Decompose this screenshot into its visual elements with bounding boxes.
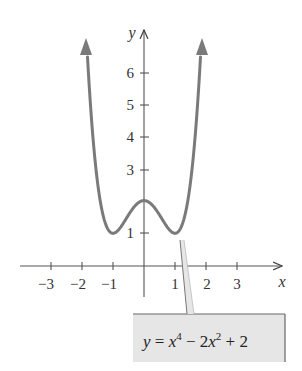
x-tick-label-neg1: −1 (101, 276, 117, 292)
y-tick-label-1: 1 (127, 225, 135, 241)
graph-canvas: −3 −2 −1 1 2 3 x 1 3 4 5 6 y (0, 0, 302, 371)
x-axis-label: x (277, 273, 285, 290)
y-tick-label-6: 6 (127, 65, 135, 81)
y-tick-label-3: 3 (127, 162, 135, 178)
curve-arrow-left-icon (80, 38, 92, 55)
x-tick-label-neg3: −3 (38, 276, 54, 292)
y-axis-label: y (126, 24, 136, 42)
x-tick-label-1: 1 (171, 276, 179, 292)
callout-pointer (180, 240, 194, 314)
x-tick-label-3: 3 (233, 276, 241, 292)
y-axis: 1 3 4 5 6 y (126, 24, 149, 297)
curve-arrow-right-icon (196, 38, 208, 55)
y-tick-label-4: 4 (127, 129, 135, 145)
x-tick-label-2: 2 (203, 276, 211, 292)
y-tick-label-5: 5 (127, 97, 135, 113)
x-axis: −3 −2 −1 1 2 3 x (20, 262, 286, 292)
equation-text: y = x4 − 2x2 + 2 (141, 330, 248, 351)
equation-callout: y = x4 − 2x2 + 2 (133, 240, 285, 362)
x-tick-label-neg2: −2 (70, 276, 86, 292)
